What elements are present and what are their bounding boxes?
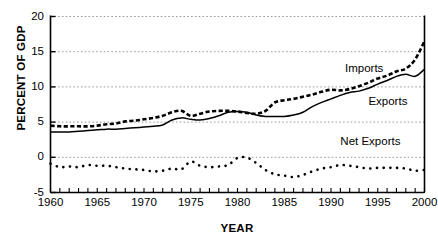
y-tick-label: 10 [6, 81, 44, 93]
series-label-net-exports: Net Exports [340, 135, 400, 147]
x-tick-label: 1980 [218, 196, 258, 208]
plot-area [0, 0, 438, 247]
x-tick-label: 1970 [124, 196, 164, 208]
chart-figure: PERCENT OF GDP YEAR 20151050-5 196019651… [0, 0, 438, 247]
x-tick-label: 1990 [311, 196, 351, 208]
series-label-imports: Imports [345, 62, 383, 74]
series-line-net-exports [51, 157, 425, 177]
y-tick-label: 15 [6, 46, 44, 58]
y-tick-label: 5 [6, 116, 44, 128]
y-tick-label: 20 [6, 11, 44, 23]
x-tick-label: 1965 [77, 196, 117, 208]
x-tick-label: 1960 [31, 196, 71, 208]
x-tick-label: 2000 [405, 196, 438, 208]
x-tick-label: 1975 [171, 196, 211, 208]
x-tick-label: 1985 [264, 196, 304, 208]
series-line-imports [51, 41, 425, 126]
series-label-exports: Exports [368, 95, 407, 107]
y-tick-label: 0 [6, 151, 44, 163]
x-tick-label: 1995 [358, 196, 398, 208]
x-axis-title: YEAR [50, 222, 424, 234]
